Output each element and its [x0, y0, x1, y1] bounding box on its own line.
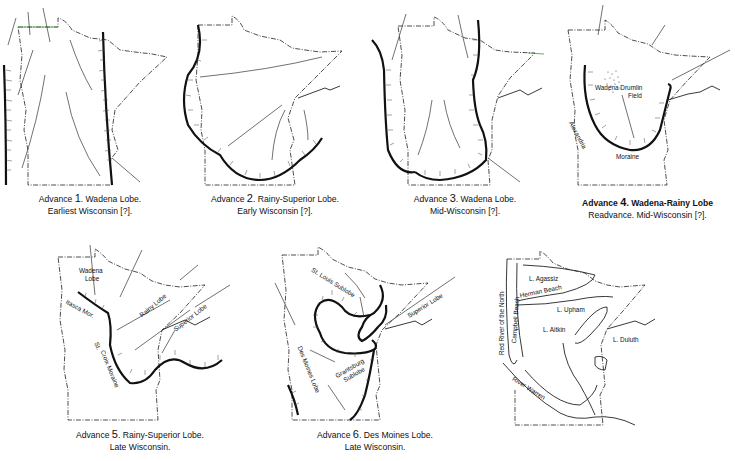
label-red-river-of-the-north: Red River of the North: [498, 291, 505, 355]
label-lobe: Lobe: [85, 275, 99, 282]
label-lake-aitkin: L. Aitkin: [543, 326, 565, 333]
panel-advance-5: Wadena Lobe Itasca Mor. Rainy Lobe Super…: [40, 245, 240, 461]
map-advance-1: [0, 0, 180, 185]
map-glacial-lakes: [495, 245, 670, 435]
caption-advance-3: Advance 3. Wadena Lobe. Mid-Wisconsin [?…: [375, 192, 555, 217]
map-advance-4: [560, 0, 735, 185]
caption-advance-2: Advance 2. Rainy-Superior Lobe. Early Wi…: [185, 192, 365, 217]
label-lake-upham: L. Upham: [557, 306, 585, 313]
panel-advance-2: Advance 2. Rainy-Superior Lobe. Early Wi…: [180, 0, 370, 225]
map-advance-5: [40, 245, 240, 425]
caption-advance-4: Advance 4. Wadena-Rainy Lobe Readvance. …: [560, 196, 735, 221]
panel-advance-3: Advance 3. Wadena Lobe. Mid-Wisconsin [?…: [370, 0, 560, 225]
label-lake-duluth: L. Duluth: [613, 336, 639, 343]
panel-advance-6: St. Louis Sublobe Superior Lobe Grantsbu…: [270, 245, 480, 461]
label-field: Field: [628, 92, 642, 99]
caption-advance-6: Advance 6. Des Moines Lobe. Late Wiscons…: [280, 428, 470, 453]
caption-advance-1: Advance 1. Wadena Lobe. Earliest Wiscons…: [10, 192, 170, 217]
label-wadena: Wadena: [79, 267, 103, 274]
panel-advance-4: Wadena Drumlin Field Alexandria Moraine …: [560, 0, 735, 225]
label-moraine: Moraine: [616, 153, 639, 160]
panel-glacial-lakes: Red River of the North Campbell Beach He…: [495, 245, 670, 435]
map-advance-3: [370, 0, 560, 185]
panel-advance-1: Advance 1. Wadena Lobe. Earliest Wiscons…: [0, 0, 180, 225]
map-advance-6: [270, 245, 480, 425]
map-advance-2: [180, 0, 370, 185]
label-lake-agassiz: L. Agassiz: [529, 275, 558, 282]
caption-advance-5: Advance 5. Rainy-Superior Lobe. Late Wis…: [45, 428, 235, 453]
label-wadena-drumlin: Wadena Drumlin: [595, 84, 642, 91]
